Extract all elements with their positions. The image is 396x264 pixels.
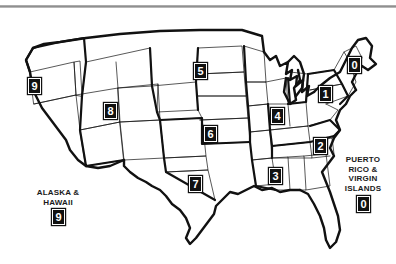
circuit-badge-0-new-england[interactable]: 0 xyxy=(348,57,361,73)
circuit-badge-1[interactable]: 1 xyxy=(319,86,332,102)
circuit-badge-5[interactable]: 5 xyxy=(194,63,207,79)
circuit-badge-0-puerto-rico[interactable]: 0 xyxy=(357,196,370,212)
circuit-badge-8[interactable]: 8 xyxy=(104,103,117,119)
circuit-badge-4[interactable]: 4 xyxy=(271,108,284,124)
circuit-badge-7[interactable]: 7 xyxy=(189,176,202,192)
circuit-badge-3[interactable]: 3 xyxy=(269,168,282,184)
circuit-badge-2[interactable]: 2 xyxy=(314,138,327,154)
circuit-badge-9-west[interactable]: 9 xyxy=(28,78,41,94)
circuit-badge-9-alaska-hawaii[interactable]: 9 xyxy=(52,209,65,225)
alaska-hawaii-label: ALASKA & HAWAII xyxy=(28,188,88,207)
map-figure: 9 8 5 6 7 4 3 2 1 0 ALASKA & HAWAII 9 PU… xyxy=(0,0,396,264)
circuit-badge-6[interactable]: 6 xyxy=(204,126,217,142)
puerto-rico-virgin-islands-label: PUERTO RICO & VIRGIN ISLANDS xyxy=(335,155,391,193)
